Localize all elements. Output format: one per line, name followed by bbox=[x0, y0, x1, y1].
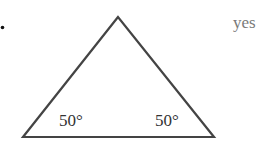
bullet-dot bbox=[1, 26, 5, 30]
angle-label-bottom-right: 50° bbox=[155, 111, 179, 130]
isosceles-triangle bbox=[23, 17, 214, 137]
answer-text: yes bbox=[233, 13, 256, 32]
triangle-diagram: 50° 50° yes bbox=[0, 0, 264, 155]
angle-label-bottom-left: 50° bbox=[59, 111, 83, 130]
